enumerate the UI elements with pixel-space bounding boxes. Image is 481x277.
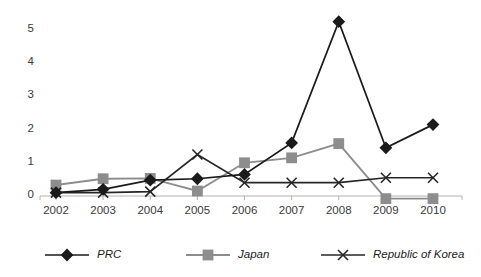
data-point-square [192, 186, 203, 197]
data-point-square [380, 193, 391, 204]
x-axis-tick-label: 2004 [127, 204, 173, 216]
line-chart: 543210 200220032004200520062007200820092… [0, 0, 481, 277]
series-layer [50, 15, 440, 204]
legend-label: Republic of Korea [373, 248, 464, 260]
legend-label: Japan [238, 248, 269, 260]
data-point-diamond [285, 136, 298, 149]
chart-legend: PRCJapanRepublic of Korea [0, 236, 481, 268]
legend-marker-square-icon [185, 247, 231, 261]
y-axis-tick-label: 5 [8, 22, 34, 34]
legend-item-japan[interactable]: Japan [185, 244, 269, 264]
data-point-diamond [61, 249, 74, 262]
y-axis-tick-label: 3 [8, 88, 34, 100]
y-axis-tick-label: 0 [8, 188, 34, 200]
data-point-square [98, 173, 109, 184]
x-axis-tick-label: 2006 [222, 204, 268, 216]
x-axis-tick-label: 2007 [269, 204, 315, 216]
series-prc [50, 15, 440, 199]
legend-item-prc[interactable]: PRC [44, 244, 121, 264]
data-point-square [333, 138, 344, 149]
legend-label: PRC [97, 248, 121, 260]
x-axis-tick-label: 2003 [80, 204, 126, 216]
data-point-square [428, 193, 439, 204]
legend-marker-x-icon [320, 247, 366, 261]
plot-svg [0, 0, 481, 232]
x-axis-tick-label: 2008 [316, 204, 362, 216]
data-point-diamond [97, 183, 110, 196]
y-axis-tick-label: 1 [8, 155, 34, 167]
data-point-diamond [191, 172, 204, 185]
data-point-square [239, 157, 250, 168]
plot-area: 543210 200220032004200520062007200820092… [0, 0, 481, 232]
y-axis-tick-label: 2 [8, 122, 34, 134]
x-axis-tick-label: 2010 [410, 204, 456, 216]
data-point-x [192, 150, 202, 160]
data-point-diamond [379, 141, 392, 154]
data-point-diamond [332, 15, 345, 28]
data-point-square [286, 152, 297, 163]
x-axis-tick-label: 2005 [174, 204, 220, 216]
legend-item-republic-of-korea[interactable]: Republic of Korea [320, 244, 464, 264]
y-axis-tick-label: 4 [8, 55, 34, 67]
x-axis-tick-label: 2002 [33, 204, 79, 216]
data-point-diamond [427, 118, 440, 131]
x-axis-tick-label: 2009 [363, 204, 409, 216]
legend-marker-diamond-icon [44, 247, 90, 261]
data-point-square [203, 250, 214, 261]
